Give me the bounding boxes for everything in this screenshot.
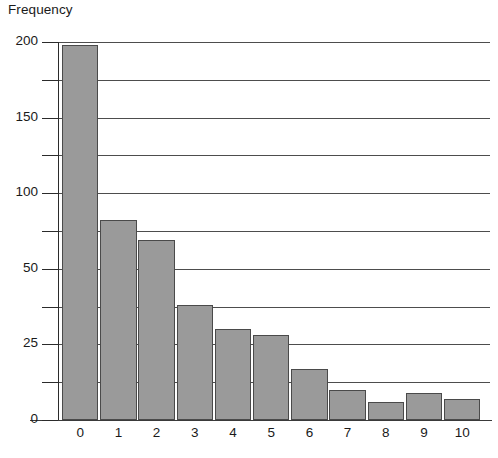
x-tick-label: 10 <box>442 425 482 440</box>
y-tick-label: 150 <box>0 109 38 124</box>
x-tick-label: 6 <box>289 425 329 440</box>
x-tick-label: 7 <box>328 425 368 440</box>
y-tick-mark <box>42 118 58 119</box>
y-axis-title: Frequency <box>8 2 73 17</box>
x-tick-label: 9 <box>404 425 444 440</box>
bar <box>100 220 136 420</box>
y-tick-label: 25 <box>0 335 38 350</box>
y-tick-mark <box>42 231 58 232</box>
bar <box>215 329 251 420</box>
gridline <box>58 80 490 81</box>
y-tick-label: 50 <box>0 260 38 275</box>
y-tick-mark <box>42 155 58 156</box>
bar <box>253 335 289 420</box>
gridline <box>58 42 490 43</box>
x-tick-label: 0 <box>60 425 100 440</box>
y-tick-mark <box>42 344 58 345</box>
y-tick-label: 0 <box>0 411 38 426</box>
x-tick-label: 2 <box>137 425 177 440</box>
x-axis-line <box>30 420 492 421</box>
bar <box>138 240 174 420</box>
gridline <box>58 193 490 194</box>
y-tick-label: 200 <box>0 33 38 48</box>
bar <box>291 369 327 420</box>
bar <box>444 399 480 420</box>
x-tick-label: 4 <box>213 425 253 440</box>
bar <box>329 390 365 420</box>
y-tick-mark <box>42 80 58 81</box>
bar <box>62 45 98 420</box>
y-tick-mark <box>42 269 58 270</box>
y-tick-mark <box>42 307 58 308</box>
bar <box>368 402 404 420</box>
y-tick-label: 100 <box>0 184 38 199</box>
histogram-chart: Frequency 02550100150200012345678910 <box>0 0 498 458</box>
bar <box>406 393 442 420</box>
y-tick-mark <box>42 382 58 383</box>
y-tick-mark <box>42 420 58 421</box>
x-tick-label: 1 <box>98 425 138 440</box>
y-tick-mark <box>42 193 58 194</box>
y-axis-line <box>58 42 59 421</box>
x-tick-label: 3 <box>175 425 215 440</box>
x-tick-label: 8 <box>366 425 406 440</box>
bar <box>177 305 213 420</box>
gridline <box>58 118 490 119</box>
x-tick-label: 5 <box>251 425 291 440</box>
gridline <box>58 155 490 156</box>
y-tick-mark <box>42 42 58 43</box>
